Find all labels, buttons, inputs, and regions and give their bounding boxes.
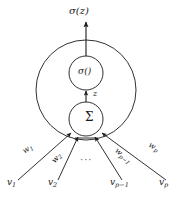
ellipsis-label: ··· bbox=[80, 155, 93, 165]
z-label: z bbox=[93, 90, 97, 98]
output-label: σ(z) bbox=[69, 6, 89, 16]
input-sub-2: 2 bbox=[53, 181, 57, 189]
input-sub-1: 1 bbox=[12, 181, 16, 189]
input-arrow-p bbox=[102, 133, 166, 180]
input-sub-p: p bbox=[164, 181, 168, 189]
input-sub-p-minus-1: p−1 bbox=[115, 181, 129, 189]
input-label-p-minus-1: vp−1 bbox=[110, 178, 129, 188]
summation-label: Σ bbox=[85, 111, 93, 123]
input-label-2: v2 bbox=[48, 178, 57, 188]
neuron-diagram-svg bbox=[0, 0, 182, 200]
input-label-1: v1 bbox=[7, 178, 16, 188]
input-label-p: vp bbox=[159, 178, 168, 188]
activation-function-label: σ() bbox=[78, 67, 91, 76]
neuron-diagram: σ(z) σ() z Σ ··· w1 w2 wp−1 wp v1 v2 vp−… bbox=[0, 0, 182, 200]
